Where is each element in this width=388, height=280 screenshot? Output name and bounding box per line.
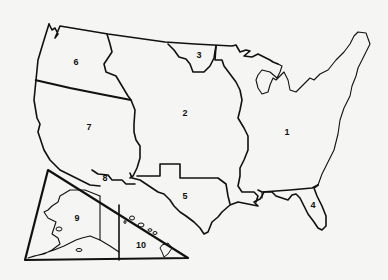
pacific-coast bbox=[34, 24, 100, 186]
region-label-3: 3 bbox=[196, 51, 201, 60]
inset-frame bbox=[25, 170, 188, 260]
region-label-7: 7 bbox=[86, 123, 91, 132]
region-label-8: 8 bbox=[102, 174, 107, 183]
region-7-2-border bbox=[130, 100, 140, 178]
hawaii-island bbox=[130, 216, 135, 220]
region-8-border bbox=[92, 170, 135, 184]
region-3-border bbox=[168, 44, 216, 72]
great-lakes-shore bbox=[256, 32, 370, 185]
hawaii-island bbox=[138, 223, 144, 227]
region-6-2-border bbox=[104, 34, 131, 100]
alaska-island bbox=[56, 227, 62, 231]
hawaii-island bbox=[148, 229, 152, 232]
us-territorial-map: 1 2 3 4 5 6 7 8 9 10 bbox=[0, 0, 388, 280]
hawaii-island bbox=[153, 232, 157, 235]
region-label-6: 6 bbox=[73, 58, 78, 67]
region-label-5: 5 bbox=[182, 192, 187, 201]
alaska-outline bbox=[28, 190, 100, 258]
alaska-island bbox=[76, 249, 82, 252]
atlantic-gulf-coast bbox=[130, 173, 326, 234]
north-border bbox=[49, 24, 278, 64]
region-label-10: 10 bbox=[136, 241, 146, 250]
map-outline bbox=[0, 0, 388, 280]
region-label-2: 2 bbox=[182, 109, 187, 118]
region-4-border bbox=[258, 185, 318, 192]
mississippi-border bbox=[215, 46, 258, 202]
region-label-1: 1 bbox=[284, 128, 289, 137]
region-label-4: 4 bbox=[310, 201, 315, 210]
region-6-7-border bbox=[35, 80, 131, 100]
region-label-9: 9 bbox=[74, 214, 79, 223]
hawaii-island bbox=[124, 221, 126, 224]
